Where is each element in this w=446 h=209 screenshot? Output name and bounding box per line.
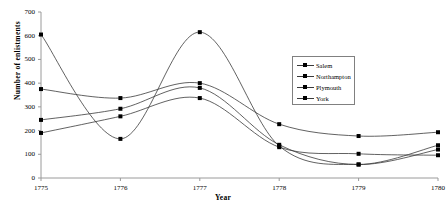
y-axis-tick-label: 200	[13, 127, 35, 135]
legend-item-salem[interactable]: Salem	[293, 60, 354, 71]
legend-marker-icon	[297, 84, 314, 91]
y-axis-tick-label: 0	[13, 174, 35, 182]
legend-label: Northampton	[314, 73, 351, 80]
y-axis-tick-label: 700	[13, 8, 35, 16]
data-point-marker	[277, 145, 281, 149]
data-point-marker	[198, 30, 202, 34]
x-axis-title: Year	[0, 193, 446, 202]
series-line	[41, 97, 438, 155]
legend-item-plymouth[interactable]: Plymouth	[293, 82, 354, 93]
y-axis-tick-label: 400	[13, 79, 35, 87]
data-point-marker	[39, 87, 43, 91]
x-axis-tick-label: 1777	[185, 184, 215, 192]
legend-label: Plymouth	[314, 84, 341, 91]
data-point-marker	[118, 96, 122, 100]
data-point-marker	[39, 33, 43, 37]
series-line	[41, 82, 438, 136]
data-point-marker	[277, 122, 281, 126]
x-axis-tick-label: 1775	[26, 184, 56, 192]
data-point-marker	[39, 118, 43, 122]
data-point-marker	[198, 96, 202, 100]
legend-label: York	[314, 95, 329, 102]
series-york	[39, 96, 440, 157]
data-point-marker	[357, 152, 361, 156]
series-northampton	[39, 81, 440, 138]
data-point-marker	[436, 148, 440, 152]
data-point-marker	[357, 162, 361, 166]
x-axis-tick-label: 1778	[264, 184, 294, 192]
chart-legend: Salem Northampton Plymouth York	[292, 56, 355, 105]
data-point-marker	[357, 134, 361, 138]
series-line	[41, 87, 438, 165]
data-point-marker	[39, 131, 43, 135]
legend-marker-icon	[297, 62, 314, 69]
data-point-marker	[118, 114, 122, 118]
data-point-marker	[436, 153, 440, 157]
y-axis-tick-label: 300	[13, 103, 35, 111]
y-axis-tick-label: 500	[13, 55, 35, 63]
data-point-marker	[198, 81, 202, 85]
series-line	[41, 32, 438, 164]
legend-item-northampton[interactable]: Northampton	[293, 71, 354, 82]
chart-container: Number of enlistments Year Salem Northam…	[0, 0, 446, 209]
y-axis-tick-label: 600	[13, 32, 35, 40]
data-point-marker	[118, 137, 122, 141]
data-point-marker	[436, 143, 440, 147]
x-axis-tick-label: 1779	[344, 184, 374, 192]
x-axis-tick-label: 1776	[105, 184, 135, 192]
legend-marker-icon	[297, 95, 314, 102]
y-axis-tick-label: 100	[13, 150, 35, 158]
plot-area	[0, 0, 446, 209]
legend-label: Salem	[314, 62, 332, 69]
data-point-marker	[436, 130, 440, 134]
x-axis-tick-label: 1780	[423, 184, 446, 192]
series-salem	[39, 30, 440, 166]
data-point-marker	[118, 107, 122, 111]
legend-marker-icon	[297, 73, 314, 80]
data-point-marker	[198, 86, 202, 90]
legend-item-york[interactable]: York	[293, 93, 354, 104]
